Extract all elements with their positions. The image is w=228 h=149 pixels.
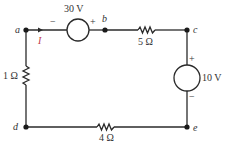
resistor-4-ohm-icon bbox=[97, 124, 114, 130]
label-30v-minus: − bbox=[50, 16, 56, 27]
voltage-source-10v-icon bbox=[174, 65, 200, 91]
label-30v: 30 V bbox=[64, 3, 84, 14]
voltage-source-30v-icon bbox=[67, 19, 89, 41]
resistor-1-ohm-icon bbox=[23, 66, 29, 85]
node-e bbox=[184, 124, 189, 129]
label-current-I: I bbox=[37, 35, 42, 46]
node-label-d: d bbox=[13, 121, 19, 132]
label-10v-plus: + bbox=[189, 53, 195, 64]
label-4-ohm: 4 Ω bbox=[99, 132, 114, 143]
resistor-5-ohm-icon bbox=[138, 27, 155, 33]
label-10v-minus: − bbox=[189, 91, 195, 102]
node-a bbox=[23, 27, 28, 32]
node-label-c: c bbox=[193, 24, 198, 35]
label-30v-plus: + bbox=[90, 16, 96, 27]
circuit-diagram: a b c d e 30 V − + 5 Ω 10 V + − 1 Ω 4 Ω … bbox=[0, 0, 228, 149]
label-1-ohm: 1 Ω bbox=[3, 70, 18, 81]
label-5-ohm: 5 Ω bbox=[138, 36, 153, 47]
node-label-b: b bbox=[102, 13, 107, 24]
node-d bbox=[23, 124, 28, 129]
node-label-e: e bbox=[193, 122, 198, 133]
current-arrow-icon bbox=[38, 28, 43, 33]
node-b bbox=[102, 27, 107, 32]
node-c bbox=[184, 27, 189, 32]
node-label-a: a bbox=[15, 24, 20, 35]
label-10v: 10 V bbox=[202, 72, 222, 83]
